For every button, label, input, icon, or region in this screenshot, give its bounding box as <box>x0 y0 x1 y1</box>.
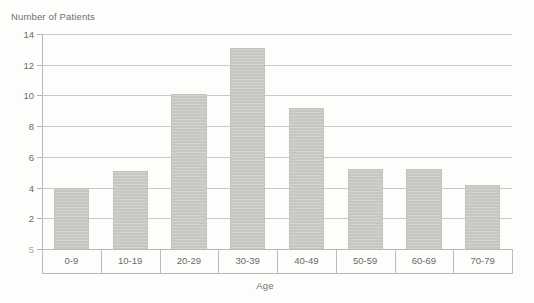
x-axis-separator <box>512 249 513 274</box>
y-axis-title: Number of Patients <box>11 11 95 22</box>
x-tick-label-50-59: 50-59 <box>353 255 377 266</box>
patient-age-histogram: Number of Patients 14121086425 0-910-192… <box>0 0 534 303</box>
x-tick-label-60-69: 60-69 <box>412 255 436 266</box>
bar-60-69 <box>406 169 441 249</box>
x-tick-label-20-29: 20-29 <box>177 255 201 266</box>
x-axis-separator <box>453 249 454 274</box>
x-tick-label-30-39: 30-39 <box>235 255 259 266</box>
y-tick-label: 10 <box>23 90 34 101</box>
x-axis-separator <box>336 249 337 274</box>
bar-10-19 <box>113 171 148 249</box>
x-axis-title: Age <box>256 280 273 291</box>
bars-group <box>42 34 512 249</box>
x-axis-separator <box>218 249 219 274</box>
x-axis-separator <box>101 249 102 274</box>
y-tick-label: 2 <box>29 213 34 224</box>
x-tick-label-70-79: 70-79 <box>470 255 494 266</box>
y-tick-label: 8 <box>29 121 34 132</box>
x-axis-separator <box>160 249 161 274</box>
y-tick-label: 14 <box>23 29 34 40</box>
y-tick-label: 5 <box>29 244 34 255</box>
x-axis-separator <box>42 249 43 274</box>
y-tick-label: 12 <box>23 59 34 70</box>
bar-50-59 <box>348 169 383 249</box>
y-tick-label: 4 <box>29 182 34 193</box>
bar-20-29 <box>171 94 206 249</box>
x-tick-label-10-19: 10-19 <box>118 255 142 266</box>
bar-40-49 <box>289 108 324 249</box>
bar-70-79 <box>465 185 500 250</box>
x-axis-separator <box>395 249 396 274</box>
plot-area: 14121086425 <box>42 34 512 249</box>
x-axis-separator <box>277 249 278 274</box>
x-tick-label-0-9: 0-9 <box>65 255 79 266</box>
x-tick-label-40-49: 40-49 <box>294 255 318 266</box>
bar-0-9 <box>54 188 89 249</box>
bar-30-39 <box>230 48 265 249</box>
y-tick-label: 6 <box>29 151 34 162</box>
